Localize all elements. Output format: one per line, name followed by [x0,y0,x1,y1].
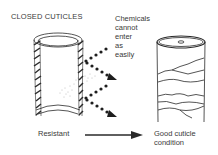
resistant-label: Resistant [38,129,69,138]
result-arrow [85,131,143,139]
chemical-arrows [84,47,117,117]
healthy-hair-shaft [157,36,205,122]
good-cuticle-line: Good cuticle [154,129,196,138]
hair-cross-section [34,33,83,116]
good-cuticle-label: Good cuticle condition [154,129,196,147]
good-cuticle-line: condition [154,138,196,147]
